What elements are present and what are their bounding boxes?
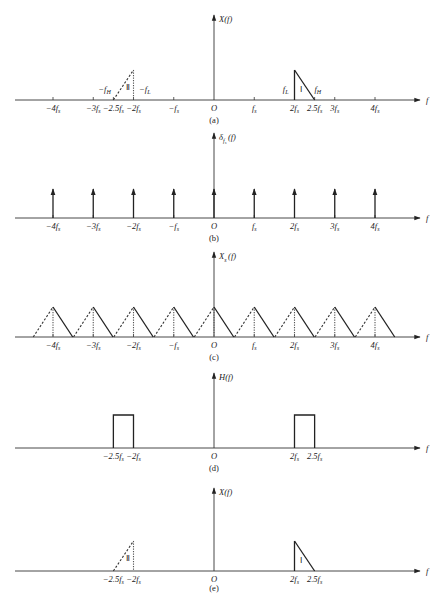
tick-label: 2fs [290,221,300,232]
panel-d: fH(f)O−2.5fs−2fs2fs2.5fs(d) [15,372,430,473]
band-label: Ⅱ [126,554,130,563]
tick-label: 3fs [329,340,340,351]
spectrum-band-pos: Ⅰ [295,70,315,100]
band-label: Ⅰ [300,85,302,94]
spectrum-band-neg: Ⅱ [113,541,133,571]
tick-label: −4fs [46,340,61,351]
tick-label: −3fs [86,103,101,114]
band-slope [113,541,133,571]
tick-label: −4fs [46,221,61,232]
x-axis-label: f [426,95,430,105]
origin-label: O [211,340,217,350]
spectrum-replica [355,307,394,337]
bandpass-sampling-figure: fX(f)O−4fs−3fs−2.5fs−2fs−fsfs2fs2.5fs3fs… [0,0,445,608]
spectrum-band-pos: Ⅰ [295,541,315,571]
origin-label: O [211,103,217,113]
tick-label: −2fs [126,221,141,232]
tick-label: 2fs [290,103,300,114]
y-axis-label: H(f) [218,372,233,382]
spectrum-replica [154,307,193,337]
tick-label: 2fs [290,574,300,585]
spectrum-replica [275,307,314,337]
panel-caption: (a) [209,115,219,125]
replica-left-slope [315,307,335,337]
spectrum-band-neg: Ⅱ [113,70,133,100]
panel-e: fX(f)O−2.5fs−2fs2fs2.5fsⅡⅠ(e) [15,487,430,593]
bandpass-filter-rect [113,415,133,448]
origin-label: O [211,221,217,231]
replica-left-slope [33,307,53,337]
tick-label: −3fs [86,221,101,232]
tick-label: 4fs [371,221,381,232]
tick-label: −2.5fs [103,451,125,462]
tick-label: −fs [169,340,180,351]
replica-right-slope [53,307,73,337]
tick-label: 2.5fs [307,103,323,114]
replica-right-slope [174,307,194,337]
tick-label: −fs [169,221,180,232]
tick-label: −2fs [126,103,141,114]
replica-left-slope [194,307,214,337]
panel-c: fXs(f)O−4fs−3fs−2fs−fsfs2fs3fs4fs(c) [15,251,430,362]
band-slope [113,70,133,100]
tick-label: 3fs [329,103,340,114]
tick-label: −2.5fs [103,103,125,114]
band-label: Ⅱ [126,83,130,92]
tick-label: 4fs [371,340,381,351]
y-axis-label: X(f) [218,487,232,497]
replica-right-slope [375,307,395,337]
y-axis-label: Xs(f) [218,251,236,263]
tick-label: −4fs [46,103,61,114]
tick-label: 2.5fs [307,574,323,585]
tick-label: −2.5fs [103,574,125,585]
panel-caption: (e) [209,583,219,593]
spectrum-replica [33,307,72,337]
tick-label: 2.5fs [307,451,323,462]
replica-left-slope [235,307,255,337]
tick-label: 2fs [290,340,300,351]
y-axis-label: X(f) [218,14,232,24]
x-axis-label: f [426,332,430,342]
replica-left-slope [74,307,94,337]
x-axis-label: f [426,213,430,223]
replica-right-slope [134,307,154,337]
replica-right-slope [335,307,355,337]
panel-caption: (d) [209,463,219,473]
tick-label: 4fs [371,103,381,114]
tick-label: fs [252,103,257,114]
replica-left-slope [114,307,134,337]
tick-label: 3fs [329,221,340,232]
panel-caption: (b) [209,233,219,243]
panel-caption: (c) [209,352,219,362]
replica-right-slope [93,307,113,337]
y-axis-label: δfs(f) [219,132,236,145]
edge-annotation: fL [283,84,289,95]
x-axis-label: f [426,443,430,453]
spectrum-replica [315,307,354,337]
band-slope [295,541,315,571]
tick-label: −fs [169,103,180,114]
tick-label: −3fs [86,340,101,351]
replica-left-slope [275,307,295,337]
x-axis-label: f [426,566,430,576]
replica-right-slope [254,307,274,337]
edge-annotation: fH [314,84,321,95]
edge-annotation: −fL [139,84,151,95]
tick-label: fs [252,340,257,351]
tick-label: −2fs [126,340,141,351]
panel-a: fX(f)O−4fs−3fs−2.5fs−2fs−fsfs2fs2.5fs3fs… [15,14,430,125]
replica-left-slope [154,307,174,337]
band-label: Ⅰ [300,556,302,565]
tick-label: −2fs [126,451,141,462]
tick-label: fs [252,221,257,232]
band-slope [295,70,315,100]
spectrum-replica [235,307,274,337]
spectrum-replica [74,307,113,337]
spectrum-replica [114,307,153,337]
bandpass-filter-rect [295,415,315,448]
edge-annotation: −fH [98,84,111,95]
replica-right-slope [295,307,315,337]
tick-label: 2fs [290,451,300,462]
replica-right-slope [214,307,234,337]
panel-b: fδfs(f)O−4fs−3fs−2fs−fsfs2fs3fs4fs(b) [15,132,430,243]
